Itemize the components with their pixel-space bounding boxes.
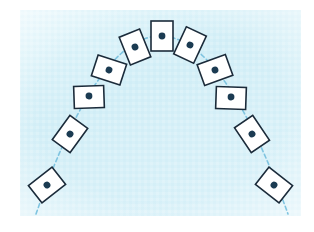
card-3-ascending-left bbox=[74, 85, 105, 108]
center-of-mass-dot bbox=[159, 33, 166, 40]
card-6-apex bbox=[151, 21, 173, 51]
figure-container bbox=[0, 0, 314, 232]
card-9-descending-right bbox=[216, 86, 247, 109]
projectile-motion-diagram bbox=[0, 0, 314, 232]
